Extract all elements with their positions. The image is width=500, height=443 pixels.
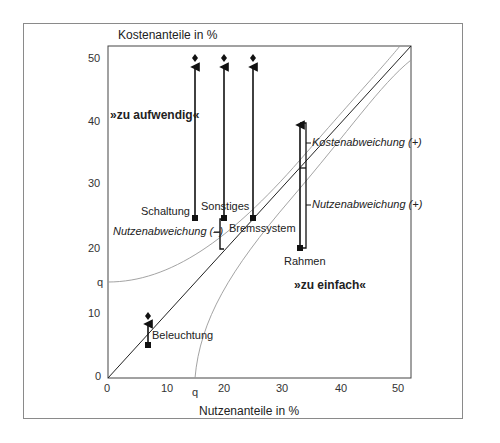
schaltung-arrow	[192, 54, 198, 221]
x-axis-label: Nutzenanteile in %	[199, 404, 299, 418]
bremssystem-arrow	[250, 54, 256, 221]
y-axis-label: Kostenanteile in %	[118, 28, 217, 42]
kostenabweichung-plus-label: Kostenabweichung (+)	[312, 136, 422, 148]
rahmen-arrow	[297, 125, 303, 251]
x-tick-40: 40	[335, 382, 347, 394]
x-tick-q: q	[192, 386, 198, 398]
x-tick-0: 0	[104, 382, 110, 394]
rahmen-bracket	[300, 123, 306, 248]
zu-aufwendig-label: »zu aufwendig«	[110, 108, 199, 122]
y-tick-40: 40	[88, 115, 100, 127]
y-tick-q: q	[97, 276, 103, 288]
y-tick-0: 0	[95, 370, 101, 382]
schaltung-label: Schaltung	[141, 205, 190, 217]
rahmen-label: Rahmen	[284, 255, 326, 267]
y-tick-20: 20	[88, 242, 100, 254]
nutzenabweichung-minus-label: Nutzenabweichung (–)	[113, 225, 223, 237]
beleuchtung-arrow	[145, 312, 151, 348]
lower-tolerance-curve	[195, 60, 411, 378]
y-tick-50: 50	[88, 52, 100, 64]
y-tick-10: 10	[88, 307, 100, 319]
zu-einfach-label: »zu einfach«	[294, 278, 366, 292]
x-tick-20: 20	[218, 382, 230, 394]
bremssystem-label: Bremssystem	[229, 222, 296, 234]
upper-tolerance-curve	[108, 46, 400, 282]
x-tick-30: 30	[276, 382, 288, 394]
beleuchtung-label: Beleuchtung	[152, 329, 213, 341]
nutzenabweichung-plus-label: Nutzenabweichung (+)	[312, 198, 422, 210]
x-tick-50: 50	[392, 382, 404, 394]
sonstiges-arrow	[221, 54, 227, 221]
y-tick-30: 30	[88, 177, 100, 189]
sonstiges-label: Sonstiges	[201, 200, 249, 212]
x-tick-10: 10	[161, 382, 173, 394]
